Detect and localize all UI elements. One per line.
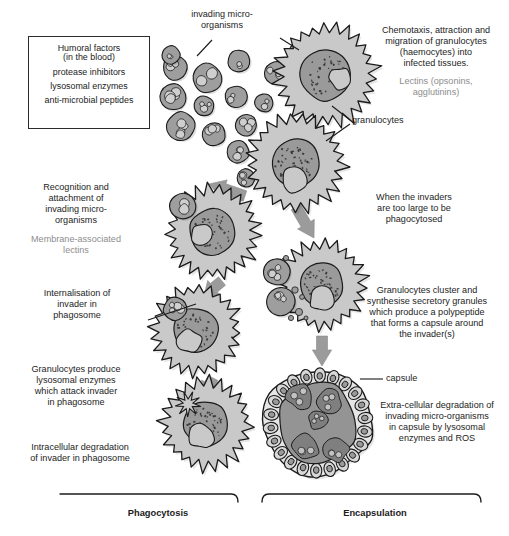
capsule-illustration xyxy=(262,368,374,480)
bracket-label-phagocytosis: Phagocytosis xyxy=(78,508,238,518)
label-invading-microorganisms: invading micro- organisms xyxy=(166,9,278,31)
annotation-lysosomal-enzymes: Granulocytes produce lysosomal enzymes w… xyxy=(10,364,142,408)
annotation-intracellular-degradation: Intracellular degradation of invader in … xyxy=(6,442,154,464)
annotation-extracellular-degradation: Extra-cellular degradation of invading m… xyxy=(366,400,508,444)
label-capsule: capsule xyxy=(386,373,446,384)
humoral-line-1: (in the blood) xyxy=(29,53,149,62)
diagram-canvas: Humoral factors (in the blood) protease … xyxy=(0,0,509,536)
label-granulocytes: granulocytes xyxy=(352,115,422,126)
humoral-line-2: protease inhibitors xyxy=(29,68,149,77)
annotation-chemotaxis: Chemotaxis, attraction and migration of … xyxy=(366,25,506,69)
humoral-factors-box: Humoral factors (in the blood) protease … xyxy=(28,36,150,129)
bracket-label-encapsulation: Encapsulation xyxy=(290,508,460,518)
humoral-line-3: lysosomal enzymes xyxy=(29,82,149,91)
annotation-internalisation: Internalisation of invader in phagosome xyxy=(18,288,136,321)
annotation-lectins-opsonins: Lectins (opsonins, agglutinins) xyxy=(366,76,506,98)
humoral-line-4: anti-microbial peptides xyxy=(29,96,149,105)
annotation-granulocyte-cluster: Granulocytes cluster and synthesise secr… xyxy=(348,285,506,340)
annotation-membrane-lectins: Membrane-associated lectins xyxy=(8,234,144,256)
annotation-recognition: Recognition and attachment of invading m… xyxy=(14,182,138,226)
annotation-too-large: When the invaders are too large to be ph… xyxy=(352,192,476,225)
section-brackets-group xyxy=(60,494,481,502)
